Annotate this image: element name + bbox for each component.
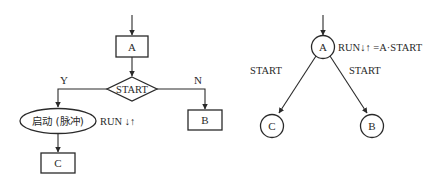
state-diagram: A RUN↓↑ =A·START START START C B	[250, 15, 423, 138]
yes-label: Y	[60, 74, 68, 86]
state-a-output: RUN↓↑ =A·START	[338, 42, 423, 53]
decision-start: START	[107, 77, 157, 101]
flow-box-b: B	[188, 110, 222, 130]
flowchart: A START Y N 启动 (脉冲) RUN ↓↑ B C	[20, 15, 222, 173]
state-c: C	[261, 115, 284, 138]
flow-box-c: C	[41, 153, 75, 173]
flow-box-b-label: B	[201, 114, 208, 126]
state-a: A	[312, 36, 335, 59]
flow-box-a-label: A	[128, 41, 136, 53]
no-label: N	[194, 74, 202, 86]
diagram-canvas: A START Y N 启动 (脉冲) RUN ↓↑ B C	[0, 0, 442, 188]
transition-to-b-label: START	[349, 65, 381, 76]
state-b-label: B	[368, 120, 375, 132]
transition-to-c-label: START	[250, 65, 282, 76]
flow-box-a: A	[116, 36, 148, 57]
yes-branch-line	[58, 89, 107, 107]
decision-label: START	[116, 84, 148, 95]
state-b: B	[361, 115, 384, 138]
action-note: RUN ↓↑	[100, 116, 135, 127]
no-branch-line	[157, 89, 205, 109]
state-c-label: C	[268, 120, 275, 132]
action-ellipse: 启动 (脉冲)	[20, 109, 96, 134]
transition-a-to-c	[279, 56, 316, 113]
flow-box-c-label: C	[54, 157, 61, 169]
state-a-label: A	[319, 41, 327, 53]
action-ellipse-label: 启动 (脉冲)	[32, 115, 84, 127]
